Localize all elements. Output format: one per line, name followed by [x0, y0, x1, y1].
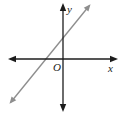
plotted-line [7, 2, 93, 105]
x-axis-left-arrowhead [8, 56, 16, 62]
x-axis-label: x [107, 62, 113, 74]
y-axis-label: y [66, 3, 72, 15]
figure-canvas: y x O [0, 0, 124, 115]
plotted-line-segment [11, 6, 89, 102]
y-axis [60, 3, 66, 112]
coordinate-plane-figure: y x O [0, 0, 124, 115]
y-axis-bottom-arrowhead [60, 104, 66, 112]
origin-label: O [53, 61, 61, 73]
y-axis-top-arrowhead [60, 3, 66, 11]
